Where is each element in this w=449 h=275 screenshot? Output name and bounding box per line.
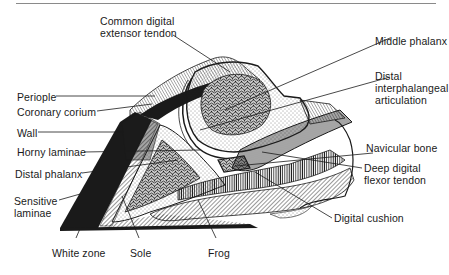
label-line: Common digital [100, 15, 210, 27]
label-common-digital-extensor-tendon: Common digital extensor tendon [100, 15, 210, 39]
label-distal-interphalangeal-articulation: Distal interphalangeal articulation [375, 70, 449, 106]
label-line: Distal [375, 70, 449, 82]
label-line: laminae [14, 207, 74, 219]
label-frog: Frog [208, 247, 230, 259]
label-middle-phalanx: Middle phalanx [375, 35, 447, 47]
label-navicular-bone: Navicular bone [366, 142, 437, 154]
label-wall: Wall [17, 127, 37, 139]
label-digital-cushion: Digital cushion [334, 212, 404, 224]
label-periople: Periople [17, 91, 56, 103]
label-line: interphalangeal [375, 82, 449, 94]
label-coronary-corium: Coronary corium [17, 106, 96, 118]
label-line: Sensitive [14, 195, 74, 207]
label-distal-phalanx: Distal phalanx [15, 168, 82, 180]
label-line: extensor tendon [100, 27, 210, 39]
label-line: Deep digital [364, 162, 444, 174]
label-line: flexor tendon [364, 174, 444, 186]
label-deep-digital-flexor-tendon: Deep digital flexor tendon [364, 162, 444, 186]
label-sole: Sole [130, 247, 151, 259]
label-white-zone: White zone [52, 247, 106, 259]
label-sensitive-laminae: Sensitive laminae [14, 195, 74, 219]
label-line: articulation [375, 94, 449, 106]
label-horny-laminae: Horny laminae [17, 146, 86, 158]
